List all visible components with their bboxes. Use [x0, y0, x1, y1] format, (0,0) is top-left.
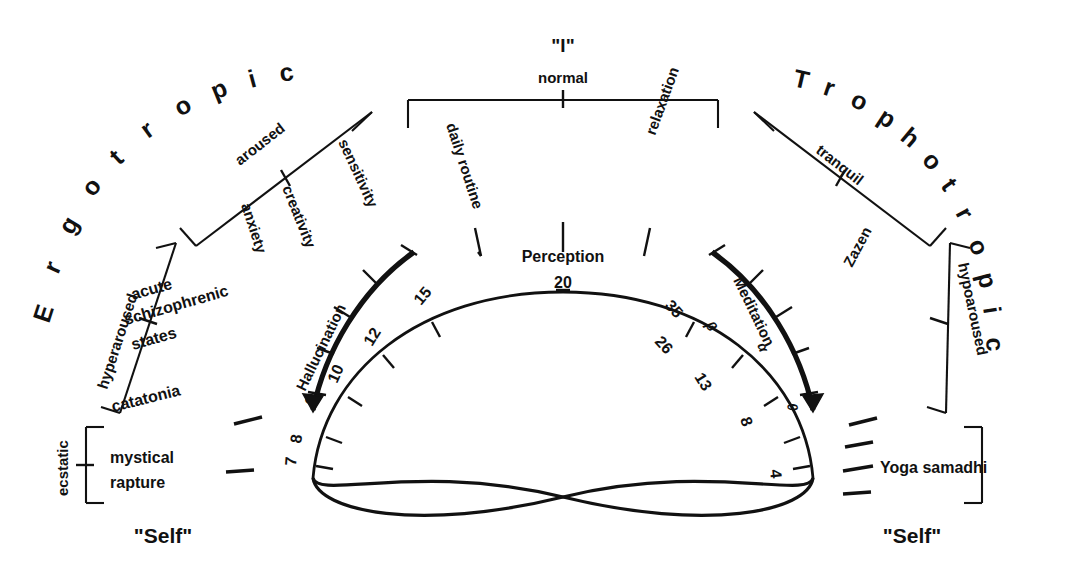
- state-yoga-samadhi: Yoga samadhi: [880, 459, 987, 476]
- number-8-right: 8: [737, 415, 756, 429]
- troph-letter-0: T: [791, 64, 812, 95]
- ergo-letter-2: g: [52, 211, 84, 239]
- self-right-label: "Self": [883, 524, 941, 547]
- ergo-letter-0: E: [27, 301, 59, 326]
- trophotropic-detached-dashes: [843, 418, 877, 494]
- number-35: 35: [662, 297, 687, 322]
- state-mystical: mystical: [110, 449, 174, 466]
- ecstatic-label: ecstatic: [54, 440, 71, 496]
- troph-letter-9: p: [972, 269, 1003, 291]
- spoke-daily-routine: daily routine: [443, 121, 487, 211]
- perception-inner-arc: [313, 290, 813, 478]
- ergotropic-aroused-label: aroused: [231, 119, 287, 168]
- spoke-creativity: creativity: [279, 183, 320, 251]
- ergo-letter-6: o: [169, 89, 196, 121]
- ergotropic-detached-dashes: [226, 417, 262, 472]
- number-13: 13: [691, 370, 715, 394]
- troph-letter-1: r: [820, 72, 839, 102]
- continuum-diagram: "I" normal aroused anxiety creativity se…: [0, 0, 1070, 570]
- number-15: 15: [410, 283, 435, 308]
- ergo-letter-3: o: [75, 172, 106, 201]
- self-left-label: "Self": [134, 524, 192, 547]
- number-4: 4: [767, 469, 785, 480]
- top-sublabel: normal: [538, 69, 588, 86]
- number-26: 26: [652, 333, 677, 358]
- spoke-zazen: Zazen: [840, 224, 875, 270]
- number-7: 7: [282, 456, 300, 466]
- troph-letter-7: r: [951, 202, 980, 224]
- ergo-letter-1: r: [37, 257, 67, 278]
- greek-theta: θ: [784, 402, 801, 413]
- number-12: 12: [360, 324, 384, 348]
- troph-letter-3: p: [873, 102, 901, 134]
- troph-letter-11: c: [981, 336, 1010, 352]
- perception-value: 20: [554, 274, 572, 291]
- troph-letter-2: o: [847, 84, 873, 116]
- spoke-anxiety: anxiety: [238, 201, 270, 256]
- ecstatic-bracket: [76, 427, 104, 503]
- troph-letter-4: h: [896, 121, 926, 152]
- ergo-letter-8: i: [245, 64, 259, 93]
- state-states: states: [129, 324, 178, 353]
- troph-letter-6: t: [936, 172, 964, 196]
- ergo-letter-7: p: [206, 73, 231, 105]
- top-label: "I": [551, 35, 574, 56]
- ergo-letter-5: r: [134, 115, 159, 144]
- troph-letter-10: i: [978, 304, 1007, 315]
- spoke-sensitivity: sensitivity: [335, 136, 382, 210]
- troph-letter-8: o: [963, 234, 995, 259]
- diagram-canvas: "I" normal aroused anxiety creativity se…: [0, 0, 1070, 570]
- state-catatonia: catatonia: [110, 381, 182, 415]
- number-8: 8: [287, 433, 305, 444]
- perception-label: Perception: [522, 248, 605, 265]
- figure-eight-base: [313, 478, 813, 515]
- meditation-arrowhead: [803, 394, 823, 412]
- ergo-letter-4: t: [103, 143, 129, 170]
- ergo-letter-9: c: [277, 57, 296, 87]
- state-rapture: rapture: [110, 474, 165, 491]
- troph-letter-5: o: [917, 145, 948, 175]
- greek-alpha: α: [754, 340, 773, 355]
